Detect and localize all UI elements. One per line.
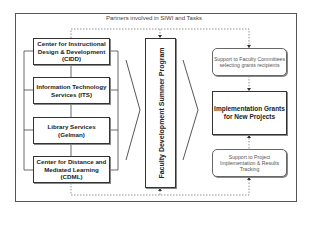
partner-cidd: Center for Instructional Design & Develo…	[33, 38, 110, 65]
partner-label: Center for Instructional Design & Develo…	[34, 40, 109, 63]
task-support-tracking: Support to Project Implementation & Resu…	[212, 149, 287, 177]
partner-its: Information Technology Services (ITS)	[33, 77, 110, 104]
partner-label: Library Services (Gelman)	[34, 123, 109, 138]
chevron-left-icon	[126, 60, 140, 160]
partner-cdml: Center for Distance and Mediated Learnin…	[33, 156, 110, 183]
program-box: Faculty Development Summer Program	[145, 38, 176, 188]
task-label: Support to Project Implementation & Resu…	[213, 154, 286, 172]
task-label: Implementation Grants for New Projects	[213, 105, 286, 121]
partner-label: Center for Distance and Mediated Learnin…	[34, 158, 109, 181]
partner-library: Library Services (Gelman)	[33, 117, 110, 144]
task-label: Support to Faculty Committees selecting …	[213, 56, 286, 68]
task-implementation-grants: Implementation Grants for New Projects	[212, 91, 287, 135]
task-support-committees: Support to Faculty Committees selecting …	[212, 48, 287, 76]
partner-label: Information Technology Services (ITS)	[34, 83, 109, 98]
chevron-right-icon	[183, 60, 198, 160]
program-label: Faculty Development Summer Program	[157, 47, 164, 178]
